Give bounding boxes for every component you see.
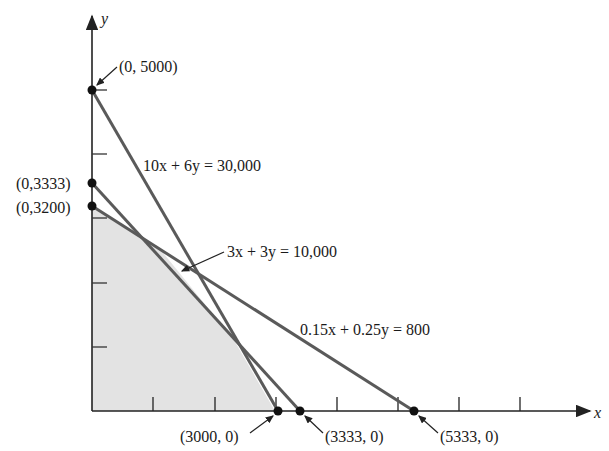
feasible-region xyxy=(92,206,275,411)
point-label-5333-0: (5333, 0) xyxy=(440,428,499,446)
point-label-3000-0: (3000, 0) xyxy=(180,428,239,446)
point-label-0-3333: (0,3333) xyxy=(16,175,71,193)
x-axis-label: x xyxy=(593,404,601,421)
point-label-3333-0: (3333, 0) xyxy=(325,428,384,446)
equation-label-3x-3y: 3x + 3y = 10,000 xyxy=(227,243,337,261)
y-axis-label: y xyxy=(99,10,109,28)
equation-label-015x-025y: 0.15x + 0.25y = 800 xyxy=(300,321,430,339)
point-label-0-5000: (0, 5000) xyxy=(119,58,178,76)
equation-label-10x-6y: 10x + 6y = 30,000 xyxy=(143,157,261,175)
linear-programming-chart: y x (0, 5000) (0,3333) (0,3200) (3000, 0… xyxy=(0,0,609,451)
point-label-0-3200: (0,3200) xyxy=(16,199,71,217)
